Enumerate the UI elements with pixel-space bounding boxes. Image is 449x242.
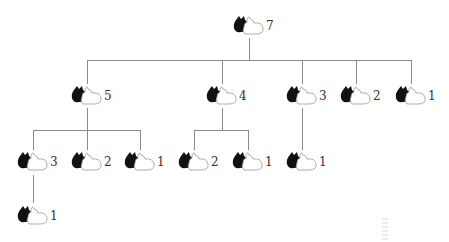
connector bbox=[249, 38, 250, 60]
connector bbox=[411, 60, 412, 84]
rabbit-pair-icon bbox=[339, 84, 373, 108]
connector bbox=[194, 130, 249, 131]
rabbit-pair-icon bbox=[16, 204, 50, 228]
connector bbox=[87, 60, 88, 84]
rabbit-pair-icon bbox=[177, 150, 211, 174]
tree-node: 2 bbox=[177, 150, 237, 174]
connector bbox=[302, 108, 303, 150]
rabbit-pair-icon bbox=[285, 84, 319, 108]
connector bbox=[33, 130, 34, 150]
node-label: 3 bbox=[319, 89, 327, 103]
tree-node: 3 bbox=[16, 150, 76, 174]
node-label: 2 bbox=[373, 89, 381, 103]
tree-node: 1 bbox=[231, 150, 291, 174]
node-label: 7 bbox=[266, 19, 274, 33]
tree-node: 3 bbox=[285, 84, 345, 108]
connector bbox=[248, 130, 249, 150]
connector bbox=[222, 108, 223, 130]
node-label: 1 bbox=[265, 155, 273, 169]
connector bbox=[194, 130, 195, 150]
tree-node: 4 bbox=[205, 84, 265, 108]
node-label: 3 bbox=[50, 155, 58, 169]
tree-node: 1 bbox=[285, 150, 345, 174]
rabbit-pair-icon bbox=[16, 150, 50, 174]
rabbit-pair-icon bbox=[232, 14, 266, 38]
connector bbox=[87, 130, 88, 150]
tree-node: 5 bbox=[70, 84, 130, 108]
connector bbox=[87, 60, 412, 61]
connector bbox=[33, 175, 34, 203]
rabbit-pair-icon bbox=[70, 84, 104, 108]
node-label: 2 bbox=[104, 155, 112, 169]
rabbit-pair-icon bbox=[285, 150, 319, 174]
node-label: 5 bbox=[104, 89, 112, 103]
node-label: 2 bbox=[211, 155, 219, 169]
tree-node: 1 bbox=[394, 84, 449, 108]
tree-node: 1 bbox=[123, 150, 183, 174]
node-label: 1 bbox=[319, 155, 327, 169]
connector bbox=[87, 108, 88, 130]
rabbit-pair-icon bbox=[231, 150, 265, 174]
connector bbox=[222, 60, 223, 84]
watermark bbox=[382, 218, 388, 240]
tree-node: 1 bbox=[16, 204, 76, 228]
rabbit-pair-icon bbox=[394, 84, 428, 108]
rabbit-pair-icon bbox=[205, 84, 239, 108]
connector bbox=[356, 60, 357, 84]
rabbit-pair-icon bbox=[123, 150, 157, 174]
node-label: 1 bbox=[428, 89, 436, 103]
node-label: 1 bbox=[157, 155, 165, 169]
tree-node: 2 bbox=[339, 84, 399, 108]
connector bbox=[140, 130, 141, 150]
rabbit-pair-icon bbox=[70, 150, 104, 174]
tree-node: 7 bbox=[232, 14, 292, 38]
node-label: 4 bbox=[239, 89, 247, 103]
node-label: 1 bbox=[50, 209, 58, 223]
connector bbox=[302, 60, 303, 84]
tree-node: 2 bbox=[70, 150, 130, 174]
